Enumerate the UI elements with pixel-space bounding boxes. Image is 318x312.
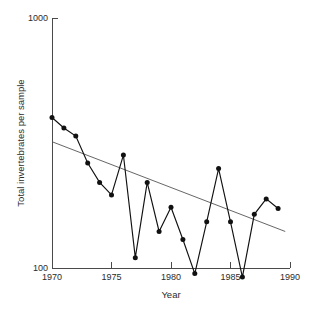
data-point-marker: [121, 153, 126, 158]
data-point-marker: [145, 180, 150, 185]
x-tick-label-1980: 1980: [161, 272, 181, 282]
data-point-marker: [192, 271, 197, 276]
data-point-marker: [252, 212, 257, 217]
data-point-marker: [50, 115, 55, 120]
x-tick-label-1975: 1975: [101, 272, 121, 282]
linear-trend-line: [52, 142, 285, 232]
x-tick-label-1990: 1990: [280, 272, 300, 282]
y-tick-label-1000: 1000: [28, 13, 48, 23]
data-point-marker: [204, 219, 209, 224]
data-point-marker: [157, 229, 162, 234]
x-tick-label-1970: 1970: [42, 272, 62, 282]
data-point-marker: [216, 166, 221, 171]
data-point-marker: [133, 255, 138, 260]
x-tick-label-1985: 1985: [220, 272, 240, 282]
data-point-marker: [73, 134, 78, 139]
data-point-marker: [61, 126, 66, 131]
data-point-marker: [228, 219, 233, 224]
invertebrates-line-chart: 1000 100 1970 1975 1980 1985 1990 Year T…: [0, 0, 318, 312]
y-axis-title: Total invertebrates per sample: [15, 79, 26, 206]
data-point-marker: [240, 275, 245, 280]
data-point-marker: [85, 161, 90, 166]
data-point-marker: [97, 180, 102, 185]
x-tick-marks: [52, 262, 290, 268]
axis-lines: [52, 18, 290, 268]
data-point-marker: [169, 205, 174, 210]
data-point-marker: [109, 192, 114, 197]
data-series-line: [52, 117, 278, 277]
data-point-markers: [50, 115, 281, 280]
data-point-marker: [264, 196, 269, 201]
x-axis-title: Year: [161, 289, 180, 300]
data-point-marker: [276, 206, 281, 211]
chart-container: 1000 100 1970 1975 1980 1985 1990 Year T…: [0, 0, 318, 312]
data-point-marker: [180, 237, 185, 242]
